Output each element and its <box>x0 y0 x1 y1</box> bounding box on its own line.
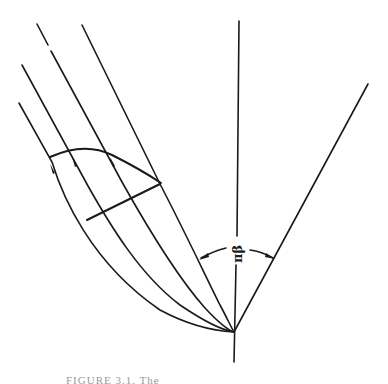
angle-label: πβ <box>230 245 245 263</box>
vertical-axis-upper <box>237 21 239 236</box>
curve-2 <box>22 65 234 332</box>
curve-3-upper <box>37 24 48 45</box>
vertical-axis-lower <box>234 265 236 362</box>
right-boundary-line <box>234 84 368 332</box>
curve-1 <box>19 103 234 332</box>
diagram-canvas: πβ <box>0 0 388 384</box>
figure-caption: FIGURE 3.1. The <box>66 374 160 384</box>
curve-3 <box>51 51 234 332</box>
arrowhead-left-icon <box>199 253 209 260</box>
arrowhead-right-icon <box>265 253 275 259</box>
arrow-up-icon <box>72 157 77 167</box>
